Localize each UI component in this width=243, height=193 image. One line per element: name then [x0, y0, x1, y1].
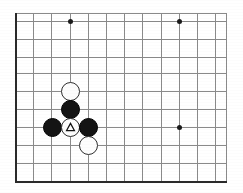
grid-line-horizontal-2 [15, 39, 226, 40]
hoshi-upper-left [68, 19, 73, 24]
bottom-edge [15, 181, 227, 183]
grid-line-vertical-12 [226, 13, 227, 181]
black-stone-left[interactable] [43, 118, 62, 137]
grid-line-horizontal-9 [15, 163, 226, 164]
grid-line-horizontal-0 [15, 13, 226, 14]
hoshi-lower-right [177, 125, 182, 130]
black-stone-upper[interactable] [61, 100, 80, 119]
white-stone-top[interactable] [61, 82, 80, 101]
go-board[interactable] [0, 0, 243, 193]
white-stone-marked[interactable] [61, 118, 80, 137]
grid-line-horizontal-5 [15, 91, 226, 92]
grid-line-horizontal-4 [15, 73, 226, 74]
go-board-figure: Go board diagram Lower-left corner of a … [0, 0, 243, 193]
left-edge [15, 13, 17, 183]
hoshi-upper-right [177, 19, 182, 24]
black-stone-right[interactable] [79, 118, 98, 137]
triangle-icon [62, 119, 79, 136]
grid-line-horizontal-6 [15, 109, 226, 110]
grid-line-horizontal-8 [15, 145, 226, 146]
grid-line-horizontal-1 [15, 21, 226, 22]
white-stone-bottom[interactable] [79, 136, 98, 155]
grid-line-horizontal-3 [15, 57, 226, 58]
